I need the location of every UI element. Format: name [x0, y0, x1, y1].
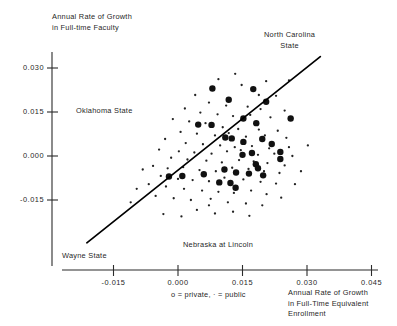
annotation-wayne-state: Wayne State — [62, 251, 107, 262]
data-point-public — [233, 192, 235, 194]
data-point-public — [219, 144, 221, 146]
data-point-public — [184, 107, 186, 109]
data-point-public — [266, 162, 268, 164]
x-axis-title-line3: Enrollment — [288, 309, 326, 318]
data-point-public — [204, 122, 206, 124]
data-point-public — [269, 116, 271, 118]
data-point-public — [165, 185, 167, 187]
data-point-public — [242, 178, 244, 180]
data-point-public — [300, 170, 302, 172]
data-point-public — [275, 182, 277, 184]
data-point-public — [167, 167, 169, 169]
data-point-public — [257, 154, 259, 156]
data-point-public — [130, 201, 132, 203]
annotation-north-carolina-state: North CarolinaState — [264, 30, 315, 51]
data-point-public — [190, 199, 192, 201]
data-point-public — [259, 108, 261, 110]
data-point-public — [215, 170, 217, 172]
regression-line — [87, 57, 320, 243]
annotation-oklahoma-state: Oklahoma State — [76, 106, 133, 117]
data-point-public — [226, 150, 228, 152]
data-point-private — [179, 173, 185, 179]
data-point-public — [277, 130, 279, 132]
data-point-public — [232, 115, 234, 117]
data-point-public — [164, 138, 166, 140]
data-points-public — [130, 73, 309, 218]
data-point-public — [214, 212, 216, 214]
data-point-public — [202, 143, 204, 145]
data-point-private — [229, 135, 235, 141]
data-point-public — [283, 164, 285, 166]
data-point-public — [208, 180, 210, 182]
data-point-public — [228, 132, 230, 134]
data-point-public — [222, 126, 224, 128]
data-point-public — [148, 183, 150, 185]
data-point-public — [227, 201, 229, 203]
data-point-public — [216, 113, 218, 115]
data-point-public — [178, 150, 180, 152]
data-point-public — [273, 153, 275, 155]
data-point-public — [250, 189, 252, 191]
data-point-public — [264, 134, 266, 136]
data-point-public — [158, 148, 160, 150]
data-point-public — [251, 145, 253, 147]
data-point-public — [294, 183, 296, 185]
data-point-public — [221, 161, 223, 163]
data-point-public — [232, 211, 234, 213]
data-point-public — [234, 73, 236, 75]
data-point-private — [240, 139, 246, 145]
data-point-private — [208, 122, 214, 128]
y-axis-tick-label: 0.015 — [0, 107, 44, 118]
data-point-private — [250, 86, 256, 92]
annotation-nc-line2: State — [280, 41, 299, 50]
data-point-private — [216, 179, 222, 185]
data-point-public — [152, 165, 154, 167]
y-axis-title-line2: in Full-time Faculty — [52, 23, 119, 32]
data-point-public — [288, 146, 290, 148]
x-axis-tick-label: 0.015 — [213, 278, 273, 289]
data-point-public — [265, 80, 267, 82]
data-point-private — [259, 136, 265, 142]
data-point-public — [237, 128, 239, 130]
y-axis-title: Annual Rate of Growthin Full-time Facult… — [52, 12, 132, 33]
x-axis-title: Annual Rate of Growthin Full-Time Equiva… — [288, 288, 369, 320]
scatter-plot-figure: Annual Rate of Growthin Full-time Facult… — [0, 0, 397, 326]
data-point-public — [231, 167, 233, 169]
data-point-public — [210, 153, 212, 155]
data-point-public — [240, 84, 242, 86]
annotation-nebraska-at-lincoln: Nebraska at Lincoln — [183, 240, 253, 251]
data-point-private — [232, 184, 238, 190]
data-point-public — [248, 215, 250, 217]
data-point-public — [201, 189, 203, 191]
y-axis-tick-label: 0.000 — [0, 151, 44, 162]
data-point-public — [283, 109, 285, 111]
data-point-public — [162, 213, 164, 215]
data-point-public — [194, 94, 196, 96]
x-axis-tick-label: 0.030 — [277, 278, 337, 289]
data-point-public — [291, 155, 293, 157]
data-point-private — [239, 152, 245, 158]
data-point-public — [263, 170, 265, 172]
data-point-private — [227, 180, 233, 186]
data-point-public — [205, 160, 207, 162]
data-point-public — [307, 144, 309, 146]
x-axis-tick-label: 0.045 — [342, 278, 397, 289]
data-point-public — [275, 95, 277, 97]
data-point-public — [185, 142, 187, 144]
data-point-private — [253, 120, 259, 126]
data-point-public — [280, 197, 282, 199]
data-point-public — [186, 158, 188, 160]
data-point-private — [287, 115, 293, 121]
data-point-public — [225, 104, 227, 106]
data-point-public — [247, 106, 249, 108]
data-point-public — [245, 202, 247, 204]
data-point-public — [160, 175, 162, 177]
data-point-public — [240, 149, 242, 151]
data-point-public — [245, 135, 247, 137]
data-point-public — [198, 169, 200, 171]
data-point-public — [170, 157, 172, 159]
data-point-public — [259, 181, 261, 183]
data-point-public — [180, 215, 182, 217]
data-point-public — [208, 101, 210, 103]
legend-label: o = private, · = public — [171, 290, 246, 301]
